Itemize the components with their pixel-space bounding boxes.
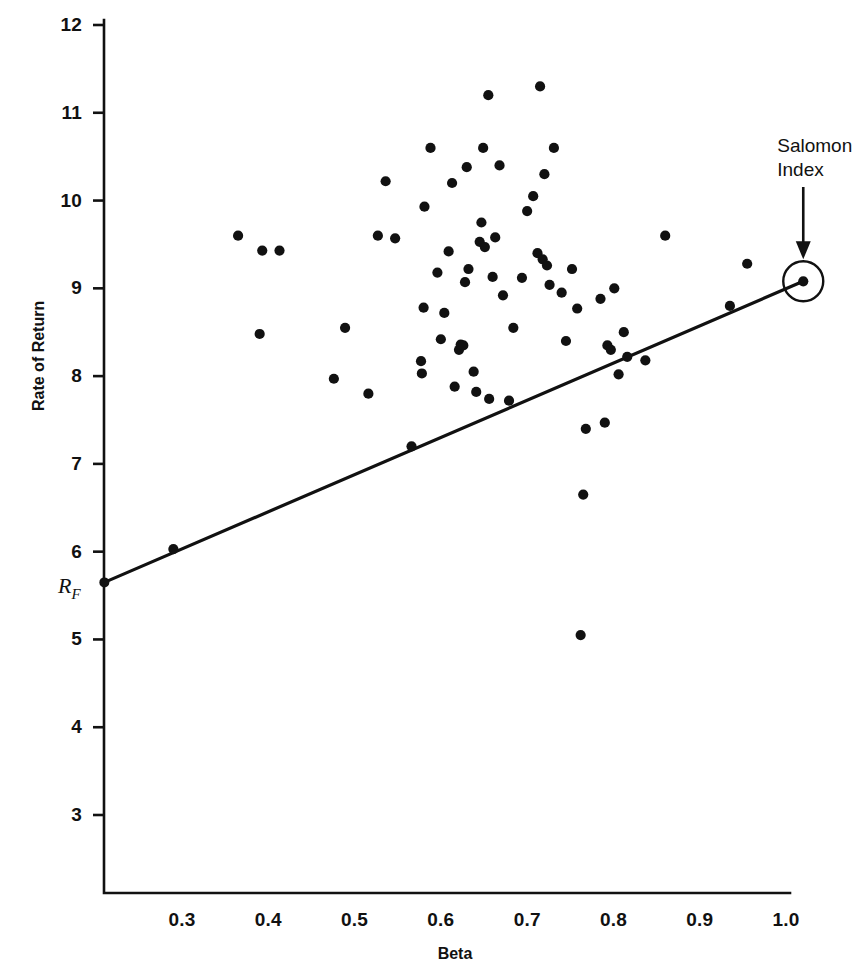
scatter-point xyxy=(539,169,549,179)
scatter-point xyxy=(549,143,559,153)
scatter-point xyxy=(444,246,454,256)
scatter-point xyxy=(255,329,265,339)
scatter-point xyxy=(606,345,616,355)
y-tick-label: 12 xyxy=(0,14,82,36)
scatter-point xyxy=(488,272,498,282)
scatter-points-group xyxy=(168,81,752,640)
y-tick-label: 8 xyxy=(0,365,82,387)
x-tick-label: 0.4 xyxy=(255,909,282,931)
scatter-point xyxy=(340,323,350,333)
scatter-point xyxy=(447,178,457,188)
annotation-arrow xyxy=(796,187,811,259)
x-tick-label: 0.8 xyxy=(600,909,627,931)
scatter-point xyxy=(581,424,591,434)
salomon-index-marker[interactable] xyxy=(783,261,823,301)
scatter-point xyxy=(494,160,504,170)
scatter-point xyxy=(508,323,518,333)
scatter-point xyxy=(600,418,610,428)
rf-base: R xyxy=(58,574,71,599)
scatter-point xyxy=(561,336,571,346)
salomon-index-annotation: Salomon Index xyxy=(777,134,852,183)
scatter-point xyxy=(329,374,339,384)
x-tick-label: 0.6 xyxy=(427,909,454,931)
scatter-point xyxy=(640,355,650,365)
scatter-point xyxy=(274,245,284,255)
scatter-point xyxy=(416,356,426,366)
scatter-point xyxy=(463,264,473,274)
scatter-point xyxy=(417,368,427,378)
y-tick-label: 6 xyxy=(0,541,82,563)
scatter-point xyxy=(614,369,624,379)
x-tick-label: 0.9 xyxy=(686,909,713,931)
risk-free-rate-label: RF xyxy=(58,574,81,603)
scatter-point xyxy=(490,232,500,242)
scatter-point xyxy=(469,367,479,377)
scatter-point xyxy=(484,394,494,404)
scatter-point xyxy=(528,191,538,201)
scatter-point xyxy=(595,294,605,304)
scatter-point xyxy=(460,277,470,287)
scatter-point xyxy=(544,280,554,290)
arrow-head xyxy=(796,241,811,259)
scatter-point xyxy=(476,217,486,227)
y-tick-label: 11 xyxy=(0,102,82,124)
y-tick-label: 3 xyxy=(0,804,82,826)
scatter-point xyxy=(458,340,468,350)
scatter-point xyxy=(450,382,460,392)
salomon-index-point[interactable] xyxy=(798,276,808,286)
scatter-point xyxy=(567,264,577,274)
scatter-point xyxy=(478,143,488,153)
scatter-point xyxy=(363,389,373,399)
scatter-point xyxy=(257,245,267,255)
scatter-point xyxy=(439,308,449,318)
scatter-point xyxy=(578,490,588,500)
y-axis-tick-marks xyxy=(93,25,104,815)
scatter-point xyxy=(436,334,446,344)
scatter-point xyxy=(542,260,552,270)
scatter-point xyxy=(609,283,619,293)
scatter-point xyxy=(483,90,493,100)
scatter-point xyxy=(480,242,490,252)
y-tick-label: 4 xyxy=(0,716,82,738)
scatter-point xyxy=(233,231,243,241)
scatter-point xyxy=(373,231,383,241)
annotation-line-1: Salomon xyxy=(777,134,852,158)
scatter-point xyxy=(660,231,670,241)
x-axis-title: Beta xyxy=(438,945,473,963)
scatter-point xyxy=(535,81,545,91)
scatter-point xyxy=(557,288,567,298)
rf-subscript: F xyxy=(71,586,80,602)
scatter-point xyxy=(498,290,508,300)
y-tick-label: 10 xyxy=(0,190,82,212)
y-tick-label: 9 xyxy=(0,277,82,299)
scatter-point xyxy=(725,301,735,311)
scatter-point xyxy=(381,176,391,186)
scatter-point xyxy=(168,544,178,554)
x-tick-label: 1.0 xyxy=(772,909,799,931)
scatter-point xyxy=(419,303,429,313)
x-tick-label: 0.5 xyxy=(341,909,368,931)
x-tick-label: 0.7 xyxy=(514,909,541,931)
scatter-point xyxy=(406,441,416,451)
scatter-point xyxy=(390,233,400,243)
y-tick-label: 5 xyxy=(0,628,82,650)
scatter-point xyxy=(522,206,532,216)
scatter-point xyxy=(471,387,481,397)
scatter-point xyxy=(425,143,435,153)
y-tick-label: 7 xyxy=(0,453,82,475)
scatter-point xyxy=(622,352,632,362)
scatter-point xyxy=(419,202,429,212)
scatter-point xyxy=(517,273,527,283)
scatter-point xyxy=(576,630,586,640)
scatter-point xyxy=(742,259,752,269)
scatter-point xyxy=(462,162,472,172)
scatter-point xyxy=(619,327,629,337)
x-tick-label: 0.3 xyxy=(168,909,195,931)
scatter-point xyxy=(432,267,442,277)
annotation-line-2: Index xyxy=(777,158,852,182)
y-axis-title: Rate of Return xyxy=(30,301,48,411)
scatter-point xyxy=(572,303,582,313)
axes-lines xyxy=(104,20,790,893)
